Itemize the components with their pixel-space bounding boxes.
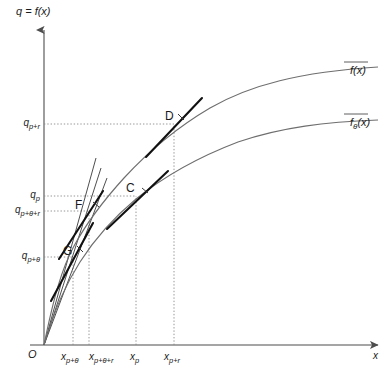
y-tick-sub-0: p+r xyxy=(29,122,40,131)
tangent-at-d xyxy=(146,98,202,157)
y-axis-title: q = f(x) xyxy=(16,6,51,17)
curve-label-f: f(x) xyxy=(350,65,366,76)
x-tick-label-x-p-theta-r: xp+θ+r xyxy=(89,352,114,365)
x-axis-name: x xyxy=(373,351,378,361)
y-tick-label-q-p-theta-r: qp+θ+r xyxy=(0,205,40,218)
curve-label-f-text: f(x) xyxy=(350,64,366,76)
point-label-g: G xyxy=(63,245,72,257)
curve-label-f-theta-suffix: (x) xyxy=(357,116,370,128)
y-tick-sub-1: p xyxy=(36,194,40,203)
curve-label-f-theta: fθ(x) xyxy=(350,117,370,131)
point-label-d: D xyxy=(165,110,174,122)
economics-production-function-diagram: q = f(x) x O f(x) fθ(x) xp+θ xp+θ+r xp x… xyxy=(0,0,391,386)
x-tick-sub-3: p+r xyxy=(169,356,180,365)
y-tick-sub-3: p+θ xyxy=(27,255,40,264)
axis-group xyxy=(30,30,378,345)
x-tick-sub-1: p+θ+r xyxy=(94,356,114,365)
origin-label: O xyxy=(28,349,37,360)
tangent-at-c xyxy=(107,171,168,229)
tangent-at-g xyxy=(51,223,93,301)
y-tick-label-q-p-r: qp+r xyxy=(0,118,40,131)
y-tick-label-q-p-theta: qp+θ xyxy=(0,251,40,264)
x-tick-sub-0: p+θ xyxy=(66,356,79,365)
point-label-f: F xyxy=(75,199,82,211)
point-label-c: C xyxy=(126,182,135,194)
diagram-canvas xyxy=(0,0,391,386)
x-tick-label-x-p: xp xyxy=(130,352,139,365)
curve-f-theta xyxy=(44,120,378,345)
x-tick-label-x-p-r: xp+r xyxy=(164,352,180,365)
x-tick-label-x-p-theta: xp+θ xyxy=(61,352,79,365)
x-tick-sub-2: p xyxy=(135,356,139,365)
y-tick-label-q-p: qp xyxy=(0,190,40,203)
y-tick-sub-2: p+θ+r xyxy=(21,209,41,218)
guide-lines xyxy=(44,124,174,345)
